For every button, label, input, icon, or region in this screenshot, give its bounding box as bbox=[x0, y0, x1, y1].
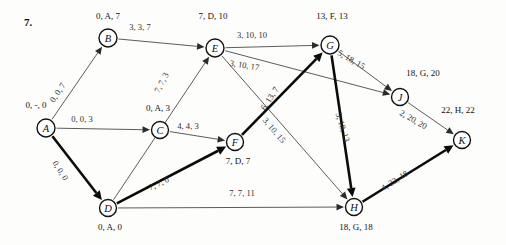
node-letter-c: C bbox=[156, 125, 164, 136]
arrowhead-g-j bbox=[384, 84, 392, 91]
node-letter-g: G bbox=[326, 40, 334, 51]
edge-label-e-j: 3, 10, 17 bbox=[229, 58, 261, 73]
edge-label-d-h: 7, 7, 11 bbox=[229, 188, 254, 198]
arrowhead-b-e bbox=[197, 43, 205, 50]
node-label-h: 18, G, 18 bbox=[339, 222, 373, 232]
node-label-j: 18, G, 20 bbox=[406, 68, 440, 78]
arrowhead-c-f bbox=[217, 136, 225, 143]
node-label-b: 0, A, 7 bbox=[96, 11, 121, 21]
node-letter-d: D bbox=[103, 203, 112, 214]
node-letter-h: H bbox=[349, 202, 359, 213]
node-label-g: 13, F, 13 bbox=[316, 11, 348, 21]
edge-label-g-j: 5, 18, 15 bbox=[336, 48, 367, 72]
node-label-f: 7, D, 7 bbox=[226, 156, 251, 166]
edge-label-g-h: 5, 18, 13 bbox=[334, 111, 352, 143]
node-letter-b: B bbox=[105, 33, 112, 44]
node-label-a: 0, -, 0 bbox=[26, 100, 47, 110]
edge-label-e-g: 3, 10, 10 bbox=[237, 30, 267, 40]
edge-label-d-e: 7, 7, 3 bbox=[152, 71, 171, 95]
edge-label-h-k: 4, 22, 18 bbox=[379, 168, 410, 192]
network-diagram: 7. ABCDEFGHJK 0, -, 00, A, 70, A, 30, A,… bbox=[0, 0, 506, 245]
arrowhead-d-e bbox=[202, 57, 209, 65]
edge-b-e bbox=[118, 39, 197, 46]
network-graph-canvas: ABCDEFGHJK 0, -, 00, A, 70, A, 30, A, 07… bbox=[0, 0, 506, 245]
edge-a-c bbox=[57, 128, 143, 130]
node-label-d: 0, A, 0 bbox=[98, 222, 123, 232]
arrowhead-d-h bbox=[336, 204, 344, 211]
edge-label-j-k: 2, 20, 20 bbox=[398, 108, 429, 132]
edge-d-h bbox=[118, 207, 337, 208]
edge-c-f bbox=[170, 132, 218, 140]
edge-labels-layer: 0, 0, 70, 0, 30, 0, 03, 3, 74, 4, 37, 7,… bbox=[47, 22, 429, 198]
node-letter-a: A bbox=[42, 123, 50, 134]
arrowhead-a-c bbox=[142, 126, 150, 133]
arrowhead-a-b bbox=[95, 47, 102, 55]
arrowhead-g-h bbox=[347, 188, 356, 198]
node-label-e: 7, D, 10 bbox=[199, 11, 228, 21]
edge-label-c-f: 4, 4, 3 bbox=[177, 121, 198, 131]
edge-e-g bbox=[226, 45, 313, 47]
arrowhead-e-g bbox=[312, 42, 320, 49]
edge-label-e-h: 3, 10, 15 bbox=[261, 115, 288, 144]
node-letter-f: F bbox=[231, 137, 239, 148]
node-letter-e: E bbox=[211, 43, 219, 54]
node-letter-k: K bbox=[457, 135, 466, 146]
edge-label-b-e: 3, 3, 7 bbox=[129, 22, 151, 32]
node-label-k: 22, H, 22 bbox=[441, 105, 475, 115]
edge-label-d-f: 7, 7, 0 bbox=[147, 174, 171, 192]
edge-label-a-c: 0, 0, 3 bbox=[71, 114, 92, 124]
node-label-c: 0, A, 3 bbox=[146, 103, 171, 113]
edge-label-a-d: 0, 0, 0 bbox=[51, 159, 71, 183]
arrowhead-j-k bbox=[446, 127, 454, 134]
